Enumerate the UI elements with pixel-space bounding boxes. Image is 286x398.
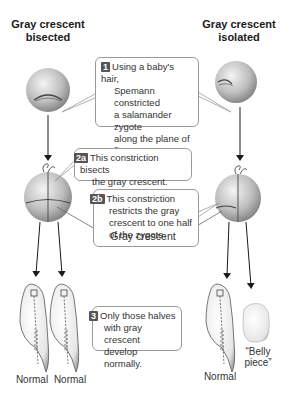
embryo-normal-1 [20,284,49,372]
heading-gray-crescent-bisected: Gray crescent bisected [4,18,92,44]
embryo-normal-3 [206,284,235,372]
zygote-right-constricted [215,166,261,222]
belly-piece [243,304,269,343]
label-normal-3: Normal [202,371,238,382]
heading-gray-crescent-isolated: Gray crescent isolated [192,18,286,44]
callout-text: This constriction [107,193,176,204]
callout-step-1: 1Using a baby's hair, Spemann constricte… [95,57,199,127]
callout-step-2a-line: 2aThis constriction bisects [80,152,186,176]
heading-right-line1: Gray crescent [192,18,286,31]
arrow-left-half-2 [58,222,62,274]
callout-text: develop normally. [98,346,176,370]
callout-text: Only those halves [100,310,176,321]
callout-text: with gray crescent [98,322,176,346]
step-badge-2b: 2b [90,194,105,204]
callout-text: a salamander zygote [101,109,193,133]
heading-left-line2: bisected [4,31,92,44]
step-badge-3: 3 [89,311,98,321]
label-belly-piece: “Belly piece” [238,346,278,368]
callout-text: the gray crescent. [80,176,186,188]
callout-step-1-line: 1Using a baby's hair, [101,61,193,85]
callout-text: restricts the gray [99,205,193,217]
heading-right-line2: isolated [192,31,286,44]
zygote-left-top [26,68,70,112]
step-badge-1: 1 [101,62,110,72]
step-badge-2a: 2a [74,153,88,163]
callout-text: crescent to one half [99,217,193,229]
arrow-left-half-1 [36,222,40,274]
callout-step-2b-line: 2bThis constriction [99,193,193,205]
callout-step-3-line: 3Only those halves [98,310,176,322]
belly-piece-line1: “Belly [238,346,278,357]
zygote-right-top [215,61,257,103]
callout-text: Spemann constricted [101,85,193,109]
callout-text: Using a baby's hair, [101,61,174,84]
callout-step-2a: 2aThis constriction bisects the gray cre… [74,148,192,181]
belly-piece-line2: piece” [238,357,278,368]
callout-text: This constriction bisects [80,152,159,175]
arrow-right-half-1 [227,222,229,276]
label-normal-1: Normal [14,374,50,385]
arrow-right-half-2 [246,222,251,286]
embryo-normal-2 [50,284,79,372]
label-normal-2: Normal [50,374,90,385]
label-gray-crescent: Gray crescent [104,231,182,242]
heading-left-line1: Gray crescent [4,18,92,31]
callout-step-3: 3Only those halves with gray crescent de… [92,306,182,351]
